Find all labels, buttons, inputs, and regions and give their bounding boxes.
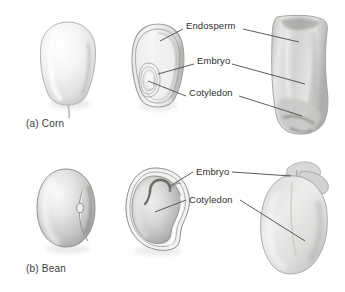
whole-bean-seed (37, 169, 95, 254)
corn-kernel-photo (272, 15, 328, 134)
corn-longitudinal-section (132, 24, 184, 111)
whole-corn-kernel (40, 22, 95, 118)
caption-bean: (b) Bean (26, 263, 66, 274)
label-endosperm-corn: Endosperm (186, 20, 235, 31)
label-embryo-corn: Embryo (197, 55, 230, 66)
leader-embryo-right (232, 172, 291, 176)
label-cotyledon-bean: Cotyledon (189, 194, 233, 205)
caption-corn: (a) Corn (26, 118, 64, 129)
label-embryo-bean: Embryo (196, 166, 229, 177)
bean-longitudinal-section (126, 168, 189, 256)
bean-seed-photo (261, 162, 329, 274)
label-cotyledon-corn: Cotyledon (189, 87, 233, 98)
seed-anatomy-figure: Endosperm Embryo Cotyledon (a) Corn (0, 0, 345, 292)
